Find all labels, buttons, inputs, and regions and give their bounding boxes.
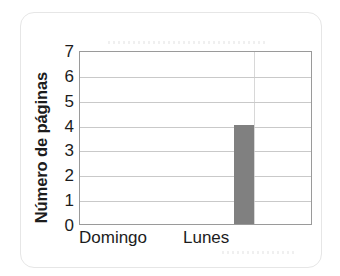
gridline	[80, 201, 311, 202]
gridline	[80, 176, 311, 177]
y-tick-label: 0	[56, 217, 74, 234]
plot-area	[79, 51, 312, 225]
y-tick-label: 7	[56, 43, 74, 60]
y-tick-label: 5	[56, 92, 74, 109]
x-axis-tick-labels: DomingoLunes	[79, 228, 319, 252]
gridline	[80, 102, 311, 103]
y-tick-label: 1	[56, 192, 74, 209]
gridline	[80, 77, 311, 78]
bar-lunes	[234, 125, 254, 224]
bar-chart: Número de páginas 01234567 DomingoLunes	[0, 0, 340, 276]
y-tick-label: 6	[56, 67, 74, 84]
y-axis-title: Número de páginas	[32, 55, 51, 241]
gridline	[80, 151, 311, 152]
y-axis-tick-labels: 01234567	[56, 51, 74, 225]
y-tick-label: 2	[56, 167, 74, 184]
y-tick-label: 3	[56, 142, 74, 159]
x-tick-label: Domingo	[79, 228, 147, 248]
gridline	[80, 127, 311, 128]
y-tick-label: 4	[56, 117, 74, 134]
x-tick-label: Lunes	[183, 228, 229, 248]
